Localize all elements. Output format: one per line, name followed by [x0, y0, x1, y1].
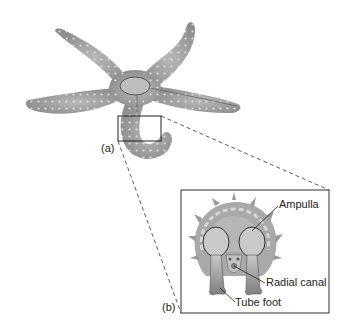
- callout-radial-canal: Radial canal: [266, 277, 327, 288]
- panel-label-b: (b): [162, 302, 175, 313]
- connector-line-top: [161, 116, 329, 190]
- callout-tube-foot: Tube foot: [235, 297, 281, 308]
- ampulla-right: [239, 227, 265, 257]
- connector-line-bottom: [118, 141, 181, 313]
- ampulla-left: [203, 227, 229, 257]
- panel-label-a: (a): [101, 143, 114, 154]
- sea-star: [26, 22, 241, 159]
- callout-ampulla: Ampulla: [279, 199, 319, 210]
- central-disc: [120, 77, 150, 95]
